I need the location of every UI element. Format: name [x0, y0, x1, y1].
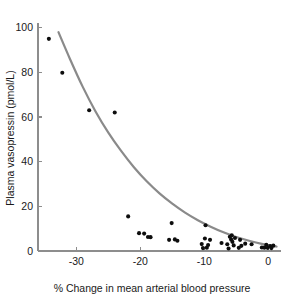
data-point-0: [47, 37, 51, 41]
data-point-21: [225, 242, 229, 246]
y-tick-label-20: 20: [21, 200, 33, 212]
x-tick-labels: -30-20-100: [69, 255, 272, 267]
y-tick-label-100: 100: [15, 21, 33, 33]
data-point-10: [170, 221, 174, 225]
x-tick-label--10: -10: [197, 255, 212, 267]
data-point-40: [271, 244, 275, 248]
scatter-plot: 020406080100 -30-20-100 Plasma vasopress…: [0, 0, 287, 301]
data-point-9: [167, 238, 171, 242]
data-point-20: [219, 241, 223, 245]
data-point-1: [60, 71, 64, 75]
data-point-4: [126, 214, 130, 218]
data-point-18: [206, 243, 210, 247]
regression-curve: [58, 32, 276, 246]
fit-curve: [58, 32, 276, 246]
y-tick-label-60: 60: [21, 111, 33, 123]
data-point-19: [208, 238, 212, 242]
data-point-30: [238, 238, 242, 242]
data-point-28: [233, 236, 237, 240]
data-point-8: [149, 235, 153, 239]
data-point-14: [201, 246, 205, 250]
data-point-22: [227, 246, 231, 250]
x-tick-label--20: -20: [133, 255, 148, 267]
x-tick-label--30: -30: [69, 255, 84, 267]
data-point-12: [175, 239, 179, 243]
x-axis-title: % Change in mean arterial blood pressure: [54, 282, 251, 294]
tick-marks: [38, 28, 268, 251]
data-point-31: [239, 244, 243, 248]
data-point-25: [230, 233, 234, 237]
data-point-16: [203, 223, 207, 227]
data-point-15: [203, 236, 207, 240]
axes: [38, 23, 281, 251]
data-point-2: [87, 108, 91, 112]
data-point-26: [230, 240, 234, 244]
y-tick-label-40: 40: [21, 155, 33, 167]
y-tick-label-80: 80: [21, 66, 33, 78]
y-tick-labels: 020406080100: [15, 21, 33, 256]
data-point-32: [243, 242, 247, 246]
data-point-3: [113, 111, 117, 115]
y-axis-title: Plasma vasopressin (pmol/L): [4, 70, 16, 205]
x-tick-label-0: 0: [265, 255, 271, 267]
chart-figure: 020406080100 -30-20-100 Plasma vasopress…: [0, 0, 287, 301]
data-point-6: [142, 232, 146, 236]
data-point-27: [232, 243, 236, 247]
data-point-33: [250, 242, 254, 246]
data-point-13: [200, 242, 204, 246]
y-tick-label-0: 0: [27, 245, 33, 257]
data-points: [47, 37, 276, 251]
data-point-5: [137, 231, 141, 235]
